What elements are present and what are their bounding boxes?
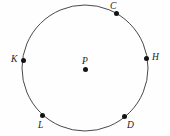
circle-point-label-k: K [11, 54, 17, 64]
center-point-dot-p [83, 67, 88, 72]
circle-point-dot-c [114, 11, 119, 16]
center-point-label-p: P [82, 56, 88, 66]
circle-point-label-c: C [110, 1, 116, 11]
circle-point-label-d: D [127, 120, 134, 130]
circle-point-dot-k [21, 58, 26, 63]
circle-point-label-h: H [152, 52, 159, 62]
circle-point-dot-h [144, 56, 149, 61]
geometry-figure-canvas: P C H K L D [0, 0, 170, 136]
circle-point-dot-d [122, 114, 127, 119]
circle-point-label-l: L [38, 120, 43, 130]
circle-point-dot-l [40, 113, 45, 118]
